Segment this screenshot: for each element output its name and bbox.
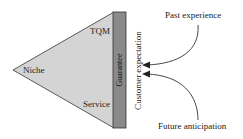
diagram-canvas: TQM Niche Service Guarantee Customer exp… bbox=[0, 0, 243, 139]
arrowhead-icon bbox=[142, 62, 150, 69]
label-tqm: TQM bbox=[90, 27, 110, 36]
past-experience-arrow bbox=[146, 25, 198, 65]
label-customer-expectation: Customer expectation bbox=[134, 26, 143, 116]
future-anticipation-arrow bbox=[146, 74, 198, 120]
label-guarantee: Guarantee bbox=[116, 45, 124, 95]
label-future-anticipation: Future anticipation bbox=[158, 122, 226, 131]
label-niche: Niche bbox=[23, 66, 45, 75]
arrowhead-icon bbox=[142, 71, 150, 78]
label-service: Service bbox=[83, 100, 110, 109]
label-past-experience: Past experience bbox=[165, 11, 221, 20]
